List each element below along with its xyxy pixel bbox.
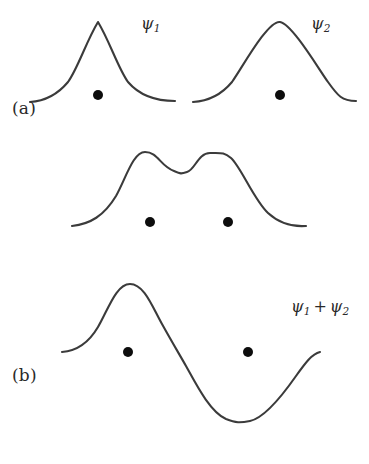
panel-a: (a) ψ1 ψ2: [0, 0, 369, 145]
panel-label-a: (a): [12, 98, 36, 118]
psi-symbol: ψ: [311, 14, 324, 33]
molecular-orbital-figure: (a) ψ1 ψ2 (b) ψ1+ψ2 (c) ψ1−ψ2: [0, 0, 369, 464]
wave-label-psi2: ψ2: [311, 14, 330, 34]
panel-c: (c) ψ1−ψ2: [0, 275, 369, 464]
psi-subscript: 1: [154, 22, 161, 34]
wavefunction-difference-curve: [62, 284, 320, 422]
panel-b: (b) ψ1+ψ2: [0, 145, 369, 295]
wavefunction-psi2-curve: [193, 22, 356, 102]
panel-c-plot: [0, 275, 369, 464]
nucleus-right: [243, 347, 253, 357]
psi-symbol: ψ: [141, 14, 154, 33]
nucleus-left: [145, 217, 155, 227]
psi-subscript: 2: [324, 22, 331, 34]
nucleus-right: [275, 90, 285, 100]
nucleus-right: [223, 217, 233, 227]
wavefunction-psi1-curve: [30, 22, 175, 102]
wave-label-psi1: ψ1: [141, 14, 160, 34]
nucleus-left: [93, 90, 103, 100]
nucleus-left: [123, 347, 133, 357]
wavefunction-sum-curve: [72, 152, 306, 226]
panel-b-plot: [0, 145, 369, 295]
